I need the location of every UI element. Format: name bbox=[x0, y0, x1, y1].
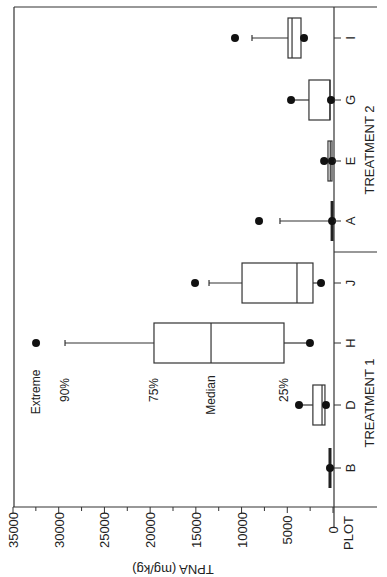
low-point bbox=[327, 96, 335, 104]
box-plots bbox=[32, 18, 336, 488]
category-label-E: E bbox=[343, 156, 358, 165]
low-point bbox=[317, 279, 325, 287]
extreme-point bbox=[287, 96, 295, 104]
box-plot-I bbox=[231, 18, 308, 58]
tick-label: 0 bbox=[326, 526, 341, 533]
extreme-point bbox=[231, 34, 239, 42]
legend-extreme: Extreme bbox=[29, 369, 43, 414]
plot-axis-title: PLOT bbox=[341, 516, 356, 550]
category-label-J: J bbox=[343, 280, 358, 287]
extreme-point bbox=[295, 401, 303, 409]
extreme-point bbox=[320, 157, 328, 165]
legend-25: 25% bbox=[277, 378, 291, 402]
tick-label: 20000 bbox=[143, 512, 158, 548]
category-label-I: I bbox=[343, 36, 358, 40]
extreme-point bbox=[191, 279, 199, 287]
group-label-treatment-2: TREATMENT 2 bbox=[362, 105, 377, 194]
category-label-B: B bbox=[343, 464, 358, 473]
low-point bbox=[306, 339, 314, 347]
box-plot-D bbox=[295, 385, 330, 425]
iqr-box bbox=[309, 80, 330, 120]
tick-label: 30000 bbox=[52, 512, 67, 548]
legend-median: Median bbox=[204, 375, 218, 414]
tick-label: 35000 bbox=[6, 512, 21, 548]
box-plot-B bbox=[326, 448, 334, 488]
low-point bbox=[326, 464, 334, 472]
box-plot-A bbox=[255, 201, 336, 241]
axis-titles: TREATMENT 2TREATMENT 1PLOTTPNA (mg/kg) bbox=[132, 105, 377, 577]
category-label-A: A bbox=[343, 216, 358, 225]
plot-category-labels: IGEAJHDB bbox=[334, 36, 358, 472]
tick-label: 25000 bbox=[97, 512, 112, 548]
tick-label: 10000 bbox=[235, 512, 250, 548]
iqr-box bbox=[242, 263, 313, 303]
legend-75: 75% bbox=[147, 378, 161, 402]
box-plot-H bbox=[32, 323, 314, 363]
box-plot-chart: 35000300002500020000150001000050000 IGEA… bbox=[0, 0, 387, 577]
extreme-point bbox=[32, 339, 40, 347]
low-point bbox=[300, 34, 308, 42]
iqr-box bbox=[288, 18, 301, 58]
value-axis-tick-labels: 35000300002500020000150001000050000 bbox=[6, 512, 341, 548]
value-axis-title: TPNA (mg/kg) bbox=[132, 562, 214, 577]
legend-annotations: Extreme90%75%Median25% bbox=[29, 369, 291, 414]
tick-label: 15000 bbox=[189, 512, 204, 548]
box-plot-J bbox=[191, 263, 325, 303]
group-label-treatment-1: TREATMENT 1 bbox=[362, 358, 377, 447]
tick-label: 5000 bbox=[280, 516, 295, 545]
iqr-box bbox=[154, 323, 284, 363]
category-label-G: G bbox=[343, 95, 358, 105]
legend-90: 90% bbox=[58, 378, 72, 402]
low-point bbox=[322, 401, 330, 409]
plot-frame bbox=[13, 7, 377, 528]
category-label-D: D bbox=[343, 400, 358, 409]
extreme-point bbox=[255, 217, 263, 225]
box-plot-G bbox=[287, 80, 335, 120]
category-label-H: H bbox=[343, 338, 358, 347]
